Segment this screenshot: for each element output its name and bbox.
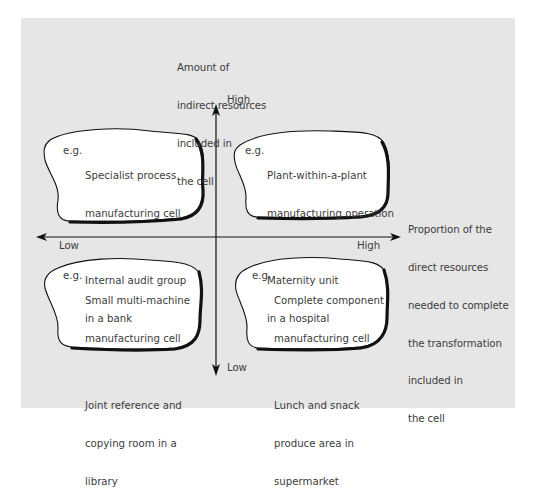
y-axis-label-line: indirect resources bbox=[177, 100, 266, 113]
example-2-line: Joint reference and bbox=[85, 400, 190, 413]
example-1-line: Specialist process bbox=[85, 170, 186, 183]
y-axis-label-line: the cell bbox=[177, 176, 266, 189]
quadrant-bottom-left-text: e.g. Small multi-machine manufacturing c… bbox=[63, 270, 69, 308]
quadrant-top-left-text: e.g. Specialist process manufacturing ce… bbox=[63, 145, 69, 183]
eg-prefix: e.g. bbox=[63, 145, 82, 158]
x-axis-label: Proportion of the direct resources neede… bbox=[408, 199, 509, 438]
example-2-line: library bbox=[85, 476, 190, 489]
x-axis-label-line: direct resources bbox=[408, 262, 509, 275]
example-1-line: manufacturing cell bbox=[85, 333, 190, 346]
example-1-line: manufacturing cell bbox=[274, 333, 384, 346]
x-axis-label-line: the transformation bbox=[408, 338, 509, 351]
example-1-line: Small multi-machine bbox=[85, 295, 190, 308]
x-axis-low-label: Low bbox=[59, 240, 79, 253]
example-2-line: produce area in bbox=[274, 438, 384, 451]
eg-prefix: e.g. bbox=[252, 270, 271, 283]
y-axis-low-label: Low bbox=[227, 362, 247, 375]
quadrant-bottom-right-text: e.g. Complete component manufacturing ce… bbox=[252, 270, 258, 308]
eg-prefix: e.g. bbox=[63, 270, 82, 283]
example-1-line: Plant-within-a-plant bbox=[267, 170, 394, 183]
x-axis-label-line: Proportion of the bbox=[408, 224, 509, 237]
x-axis-label-line: needed to complete bbox=[408, 300, 509, 313]
x-axis-label-line: included in bbox=[408, 375, 509, 388]
example-2-line: Lunch and snack bbox=[274, 400, 384, 413]
y-axis-label-line: Amount of bbox=[177, 62, 266, 75]
y-axis-label: Amount of indirect resources included in… bbox=[177, 37, 266, 201]
y-axis-high-label: High bbox=[227, 94, 250, 107]
example-1-line: manufacturing cell bbox=[85, 208, 186, 221]
quadrant-top-right-text: e.g. Plant-within-a-plant manufacturing … bbox=[245, 145, 251, 183]
example-2-line: supermarket bbox=[274, 476, 384, 489]
x-axis-label-line: the cell bbox=[408, 413, 509, 426]
example-1-line: Complete component bbox=[274, 295, 384, 308]
example-2-line: copying room in a bbox=[85, 438, 190, 451]
eg-prefix: e.g. bbox=[245, 145, 264, 158]
example-1-line: manufacturing operation bbox=[267, 208, 394, 221]
